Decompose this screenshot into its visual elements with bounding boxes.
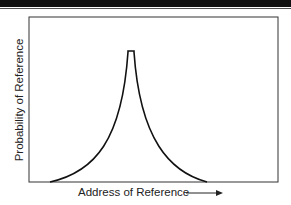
x-axis-label: Address of Reference [78,186,189,198]
y-axis-label: Probability of Reference [13,39,25,162]
x-axis-arrow-icon [186,190,223,196]
chart-canvas [0,0,291,205]
probability-curve [50,51,207,182]
plot-frame [29,17,278,182]
